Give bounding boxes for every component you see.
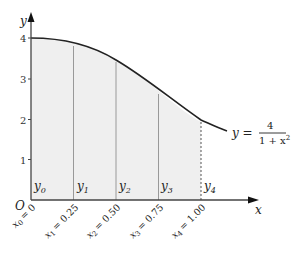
x-label-x4: x4= 1.00 [169, 202, 209, 242]
x-axis-label: x [255, 203, 262, 217]
equation-numerator: 4 [267, 120, 273, 131]
x-label-x1: x1= 0.25 [42, 202, 82, 242]
y-tick-3: 3 [20, 74, 26, 85]
y-axis-arrow-icon [28, 12, 35, 22]
y-tick-4: 4 [20, 33, 26, 44]
curve-equation: y = 4 1 + x2 [231, 120, 290, 146]
ordinate-label-y4: y4 [203, 179, 216, 195]
y-axis-label: y [19, 14, 27, 28]
y-tick-1: 1 [20, 155, 26, 166]
x-value-labels: x0= 0 x1= 0.25 x2= 0.50 x3= 0.75 x4= 1.0… [9, 202, 209, 242]
equation-denominator: 1 + x2 [259, 134, 290, 146]
x-label-x0: x0= 0 [9, 202, 39, 232]
x-label-x3: x3= 0.75 [127, 202, 167, 242]
equation-lhs: y = [231, 126, 253, 140]
y-tick-2: 2 [20, 115, 26, 126]
x-label-x2: x2= 0.50 [84, 202, 124, 242]
y-ticks: 4 3 2 1 [20, 33, 31, 166]
trapezoid-rule-diagram: 4 3 2 1 y x O y = 4 1 + x2 y0 y1 y2 y3 y… [0, 0, 304, 256]
